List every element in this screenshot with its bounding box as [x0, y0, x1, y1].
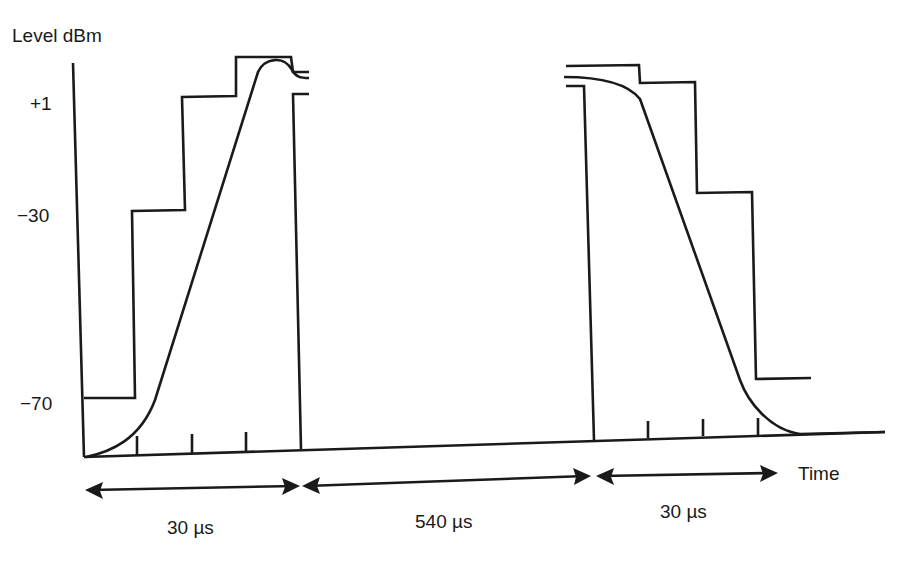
y-tick-minus70: −70	[20, 393, 52, 414]
y-tick-minus30: −30	[17, 205, 49, 226]
burst-envelope	[86, 60, 885, 457]
duration-ramp-down-label: 30 µs	[660, 501, 707, 522]
duration-ramp-up-label: 30 µs	[167, 517, 214, 538]
duration-arrows	[85, 465, 778, 499]
arrow-burst	[306, 476, 586, 486]
power-time-template-diagram: Level dBm +1 −30 −70 Time	[0, 0, 900, 566]
arrow-ramp-down	[601, 473, 772, 476]
mask-left	[84, 57, 309, 449]
duration-burst-label: 540 µs	[415, 511, 472, 532]
y-tick-plus1: +1	[30, 93, 52, 114]
y-axis-line	[73, 63, 84, 457]
axes	[73, 63, 885, 457]
x-axis-line	[84, 432, 885, 457]
y-axis-label: Level dBm	[12, 25, 102, 46]
mask-right	[566, 65, 811, 440]
arrow-ramp-up	[90, 486, 296, 490]
x-axis-label: Time	[798, 463, 840, 484]
